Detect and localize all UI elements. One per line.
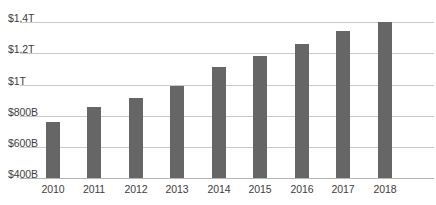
bar-2015[interactable] xyxy=(253,56,267,178)
plot-area: $1.4T $1.2T $1T $800B $600B $400B 2010 2… xyxy=(0,0,436,205)
bar-2011[interactable] xyxy=(87,107,101,178)
xtick-label-2012: 2012 xyxy=(114,184,158,195)
gridline-1-2t xyxy=(20,53,434,54)
bar-2016[interactable] xyxy=(295,44,309,178)
xtick-label-2017: 2017 xyxy=(321,184,365,195)
bar-2012[interactable] xyxy=(129,98,143,178)
bar-chart: $1.4T $1.2T $1T $800B $600B $400B 2010 2… xyxy=(0,0,436,205)
ytick-label-800b: $800B xyxy=(8,107,38,118)
ytick-label-1-2t: $1.2T xyxy=(8,44,34,55)
gridline-1-4t xyxy=(20,22,434,23)
gridline-400b-baseline xyxy=(20,178,434,179)
ytick-label-1t: $1T xyxy=(8,76,26,87)
gridline-800b xyxy=(20,116,434,117)
xtick-label-2015: 2015 xyxy=(238,184,282,195)
xtick-label-2014: 2014 xyxy=(197,184,241,195)
gridline-1t xyxy=(20,85,434,86)
bar-2017[interactable] xyxy=(336,31,350,178)
bar-2010[interactable] xyxy=(46,122,60,178)
ytick-label-1-4t: $1.4T xyxy=(8,13,34,24)
xtick-label-2011: 2011 xyxy=(72,184,116,195)
xtick-label-2016: 2016 xyxy=(280,184,324,195)
xtick-label-2010: 2010 xyxy=(31,184,75,195)
bar-2018[interactable] xyxy=(378,22,392,178)
gridline-600b xyxy=(20,147,434,148)
bar-2013[interactable] xyxy=(170,86,184,178)
ytick-label-400b: $400B xyxy=(8,169,38,180)
xtick-label-2013: 2013 xyxy=(155,184,199,195)
xtick-label-2018: 2018 xyxy=(363,184,407,195)
bar-2014[interactable] xyxy=(212,67,226,178)
ytick-label-600b: $600B xyxy=(8,138,38,149)
